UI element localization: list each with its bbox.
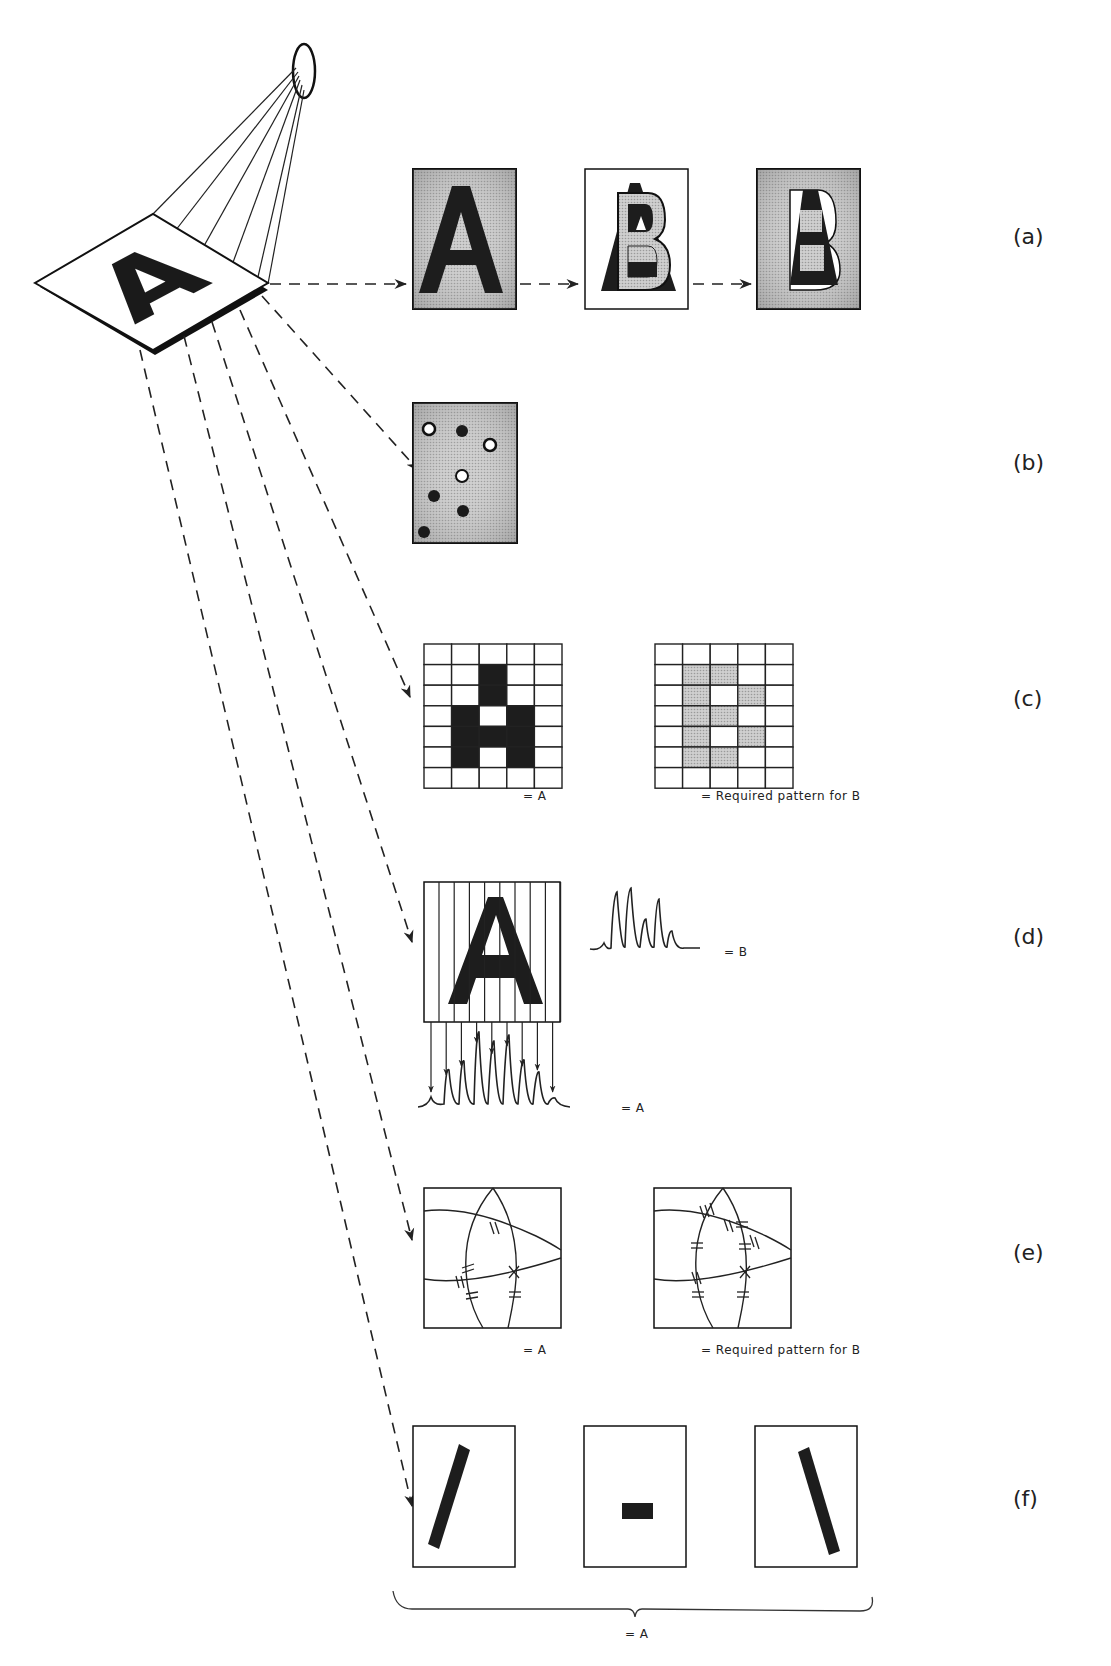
grid-cell [452, 644, 480, 665]
row-c: = A = Required pattern for B (c) [424, 644, 1042, 803]
grid-cell [534, 644, 562, 665]
grid-B [655, 644, 793, 788]
grid-cell [479, 685, 507, 706]
row-d: = B = A (d) [418, 882, 1044, 1115]
grid-cell [479, 644, 507, 665]
grid-cell [507, 768, 535, 789]
grid-cell [738, 706, 766, 727]
grid-cell [710, 726, 738, 747]
panel-a-template-A [413, 169, 516, 309]
caption-e-left: = A [523, 1343, 547, 1357]
waveform-A [418, 1032, 570, 1107]
grid-cell [655, 665, 683, 686]
source-card: A [35, 214, 268, 355]
grid-cell [683, 644, 711, 665]
grid-cell [710, 644, 738, 665]
grid-cell [507, 706, 535, 727]
grid-cell [710, 665, 738, 686]
grid-cell [424, 665, 452, 686]
stroke-panel-left-diagonal [413, 1426, 515, 1567]
caption-f: = A [625, 1627, 649, 1641]
grid-cell [738, 726, 766, 747]
grid-cell [655, 706, 683, 727]
row-a: (a) [413, 169, 1044, 309]
grid-cell [655, 768, 683, 789]
grid-cell [424, 726, 452, 747]
grid-cell [479, 768, 507, 789]
grid-cell [452, 726, 480, 747]
row-e: = A = Required pattern for B (e) [424, 1188, 1044, 1357]
grid-cell [479, 706, 507, 727]
grid-cell [738, 665, 766, 686]
grid-cell [452, 768, 480, 789]
feature-panel-A [424, 1188, 561, 1328]
grid-cell [683, 768, 711, 789]
row-label-b: (b) [1013, 450, 1044, 475]
feature-panel-B [654, 1188, 791, 1328]
caption-c-right: = Required pattern for B [701, 789, 861, 803]
grid-cell [452, 685, 480, 706]
grid-cell [655, 685, 683, 706]
grid-cell [507, 644, 535, 665]
grid-cell [534, 706, 562, 727]
row-label-f: (f) [1013, 1486, 1038, 1511]
row-label-e: (e) [1013, 1240, 1044, 1265]
grid-cell [765, 768, 793, 789]
grid-cell [534, 726, 562, 747]
grid-cell [479, 747, 507, 768]
grid-cell [765, 706, 793, 727]
grid-cell [534, 768, 562, 789]
waveform-B [590, 888, 700, 949]
grid-cell [765, 685, 793, 706]
grid-cell [683, 747, 711, 768]
grid-cell [710, 685, 738, 706]
row-f: = A (f) [393, 1426, 1038, 1641]
grid-cell [507, 665, 535, 686]
grid-cell [479, 726, 507, 747]
dashed-connectors [140, 284, 418, 1506]
grid-cell [765, 644, 793, 665]
grid-cell [655, 726, 683, 747]
row-label-c: (c) [1013, 686, 1042, 711]
scan-panel-A [424, 882, 561, 1022]
grid-cell [507, 747, 535, 768]
caption-d-A: = A [621, 1101, 645, 1115]
pattern-recognition-diagram: A [0, 0, 1111, 1666]
grid-cell [479, 665, 507, 686]
caption-d-B: = B [724, 945, 748, 959]
grid-cell [683, 665, 711, 686]
grid-cell [424, 706, 452, 727]
grid-cell [655, 644, 683, 665]
grid-cell [765, 665, 793, 686]
grid-A [424, 644, 562, 788]
panel-a-overlay [757, 169, 860, 309]
grid-cell [452, 706, 480, 727]
grid-cell [710, 747, 738, 768]
grid-cell [738, 685, 766, 706]
grid-cell [655, 747, 683, 768]
row-label-a: (a) [1013, 224, 1044, 249]
grid-cell [424, 644, 452, 665]
grid-cell [710, 706, 738, 727]
grid-cell [683, 726, 711, 747]
grid-cell [452, 747, 480, 768]
brace [393, 1591, 873, 1617]
grid-cell [507, 685, 535, 706]
grid-cell [424, 685, 452, 706]
grid-cell [424, 768, 452, 789]
grid-cell [452, 665, 480, 686]
grid-cell [424, 747, 452, 768]
stroke-panel-horizontal-bar [584, 1426, 686, 1567]
caption-c-left: = A [523, 789, 547, 803]
grid-cell [738, 747, 766, 768]
grid-cell [507, 726, 535, 747]
grid-cell [765, 747, 793, 768]
caption-e-right: = Required pattern for B [701, 1343, 861, 1357]
row-b: (b) [413, 403, 1044, 543]
panel-b-points [413, 403, 517, 543]
stroke-panel-right-diagonal [755, 1426, 857, 1567]
grid-cell [534, 665, 562, 686]
panel-a-template-B [585, 169, 688, 309]
grid-cell [534, 747, 562, 768]
grid-cell [738, 768, 766, 789]
